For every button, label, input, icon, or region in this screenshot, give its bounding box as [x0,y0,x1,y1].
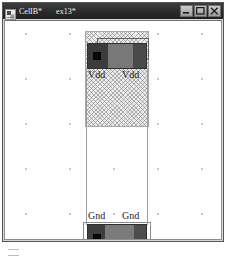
caption-rule [8,249,19,256]
window-controls [180,5,222,17]
maximize-button[interactable] [194,5,207,17]
gnd-label-left: Gnd [88,210,105,221]
layout-editor-window: CelIB* ex13* [2,2,224,242]
figure-caption [0,245,230,258]
minimize-button[interactable] [180,5,193,17]
gnd-pin-square[interactable] [93,234,101,240]
gnd-label-right: Gnd [122,210,139,221]
vdd-label-left: Vdd [88,69,105,80]
vdd-metal-rail[interactable] [87,43,147,69]
view-title: ex13* [56,7,76,16]
vdd-pin-square[interactable] [93,52,101,60]
close-button[interactable] [208,5,221,17]
cell-boundary-rectangle[interactable] [86,69,148,225]
vdd-label-right: Vdd [122,69,139,80]
layout-app-icon [5,6,16,17]
title-bar[interactable]: CelIB* ex13* [3,3,223,19]
layout-canvas[interactable]: Vdd Vdd Gnd Gnd Abut [4,20,222,240]
document-title: CelIB* [19,7,42,16]
gnd-metal-rail[interactable] [87,224,147,240]
